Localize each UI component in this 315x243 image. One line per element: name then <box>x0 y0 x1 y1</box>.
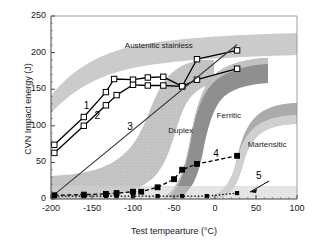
y-tick-label: 200 <box>16 47 46 57</box>
y-tick-label: 150 <box>16 83 46 93</box>
data-point <box>81 114 86 119</box>
data-point <box>172 177 177 182</box>
series-1-label: 1 <box>84 100 90 111</box>
data-point <box>103 89 108 94</box>
y-tick-label: 50 <box>16 156 46 166</box>
data-point <box>114 92 119 97</box>
x-tick-label: 0 <box>195 203 235 213</box>
x-tick-label: 100 <box>277 203 315 213</box>
chart-figure: CVN Impact energy (J) Test tempearture (… <box>0 0 315 243</box>
data-point <box>131 189 136 194</box>
data-point <box>53 195 56 198</box>
data-point <box>161 74 166 79</box>
x-tick-label: 50 <box>236 203 276 213</box>
martensitic-band-label: Martensitic <box>248 140 287 149</box>
data-point <box>130 77 135 82</box>
data-point <box>103 103 108 108</box>
ferritic-band-label: Ferritic <box>217 111 241 120</box>
y-tick-label: 100 <box>16 120 46 130</box>
data-point <box>155 185 160 190</box>
series-5-label: 5 <box>256 170 262 181</box>
data-point <box>194 57 199 62</box>
data-point <box>104 195 107 198</box>
x-tick-label: -50 <box>154 203 194 213</box>
y-tick-label: 250 <box>16 10 46 20</box>
series-3-label: 3 <box>127 121 133 132</box>
series-2-label: 2 <box>94 110 100 121</box>
data-point <box>234 48 239 53</box>
data-point <box>130 82 135 87</box>
data-point <box>180 167 185 172</box>
data-point <box>235 153 240 158</box>
duplex-band-label: Duplex <box>168 126 193 135</box>
data-point <box>195 162 200 167</box>
data-point <box>111 76 116 81</box>
data-point <box>145 83 150 88</box>
data-point <box>145 75 150 80</box>
data-point <box>161 83 166 88</box>
data-point <box>139 189 144 194</box>
data-point <box>234 66 239 71</box>
x-tick-label: -100 <box>113 203 153 213</box>
austenitic-band-label: Austenitic stainless <box>125 41 193 50</box>
series-4-label: 4 <box>213 148 219 159</box>
x-axis-label: Test tempearture (°C) <box>51 226 297 236</box>
data-point <box>81 123 86 128</box>
x-tick-label: -200 <box>31 203 71 213</box>
y-tick-label: 0 <box>16 193 46 203</box>
data-point <box>52 142 57 147</box>
x-tick-label: -150 <box>72 203 112 213</box>
data-point <box>236 192 239 195</box>
